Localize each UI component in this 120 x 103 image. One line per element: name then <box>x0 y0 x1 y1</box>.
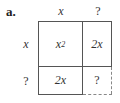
part-label: a. <box>6 4 16 20</box>
grid-right-border-dashed <box>111 67 112 94</box>
grid-bottom-border-dashed <box>83 94 112 95</box>
cell-top-left-exponent: 2 <box>61 40 65 49</box>
cell-top-right: 2x <box>83 22 111 66</box>
cell-top-left: x2 <box>39 22 82 66</box>
cell-bottom-left: 2x <box>39 67 82 94</box>
grid-bottom-border-left <box>38 94 83 95</box>
cell-bottom-right: ? <box>83 67 111 94</box>
col-header-unknown: ? <box>89 5 107 17</box>
col-header-x: x <box>52 5 70 17</box>
row-header-x: x <box>20 38 32 50</box>
row-header-unknown: ? <box>20 75 32 87</box>
grid-right-border-top <box>111 21 112 67</box>
